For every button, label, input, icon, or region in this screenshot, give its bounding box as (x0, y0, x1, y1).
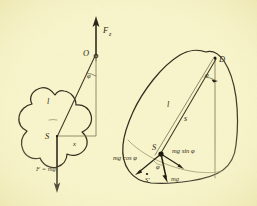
figure-canvas: F z O φ l S x F = mg (0, 0, 257, 206)
paper-vignette-overlay (0, 0, 257, 206)
physics-diagram-svg: F z O φ l S x F = mg (0, 0, 257, 206)
